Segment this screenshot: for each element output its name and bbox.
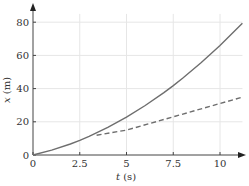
x-tick-label: 0 xyxy=(30,158,36,169)
y-axis-label: x (m) xyxy=(1,77,12,103)
tangent-line xyxy=(97,97,243,135)
x-axis-arrow-icon xyxy=(238,152,246,158)
x-tick-label: 7.5 xyxy=(165,158,181,169)
position-line xyxy=(33,23,242,155)
y-tick-label: 40 xyxy=(16,83,29,94)
y-tick-label: 0 xyxy=(23,150,29,161)
x-axis-label: t (s) xyxy=(116,171,136,182)
y-tick-label: 60 xyxy=(16,50,29,61)
series xyxy=(33,23,242,155)
axes xyxy=(30,3,246,158)
y-axis-arrow-icon xyxy=(30,3,36,11)
x-tick-label: 10 xyxy=(214,158,227,169)
x-tick-label: 5 xyxy=(123,158,129,169)
y-tick-label: 80 xyxy=(16,17,29,28)
grid-lines xyxy=(33,14,242,155)
y-tick-label: 20 xyxy=(16,116,29,127)
x-tick-label: 2.5 xyxy=(72,158,88,169)
position-time-chart: 02.557.510 020406080 t (s) x (m) xyxy=(0,0,249,186)
